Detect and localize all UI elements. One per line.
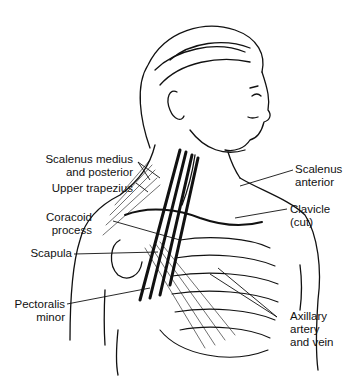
label-line: and vein bbox=[290, 336, 333, 349]
label-line: anterior bbox=[295, 176, 342, 189]
label-line: Upper trapezius bbox=[52, 182, 133, 195]
label-line: Scalenus bbox=[295, 163, 342, 176]
label-line: Pectoralis bbox=[15, 298, 66, 311]
label-line: Scalenus medius bbox=[45, 153, 133, 166]
label-coracoid-process: Coracoid process bbox=[46, 211, 92, 237]
label-line: Scapula bbox=[30, 247, 72, 260]
label-line: (cut) bbox=[290, 216, 330, 229]
label-line: Coracoid bbox=[46, 211, 92, 224]
label-scalenus-medius: Scalenus medius and posterior bbox=[45, 153, 133, 179]
label-line: minor bbox=[15, 311, 66, 324]
label-axillary-artery-vein: Axillary artery and vein bbox=[290, 310, 333, 349]
head-drawing bbox=[140, 26, 270, 178]
label-scalenus-anterior: Scalenus anterior bbox=[295, 163, 342, 189]
label-scapula: Scapula bbox=[30, 247, 72, 260]
scalene-muscles bbox=[140, 150, 198, 300]
label-upper-trapezius: Upper trapezius bbox=[52, 182, 133, 195]
label-line: Clavicle bbox=[290, 203, 330, 216]
label-pectoralis-minor: Pectoralis minor bbox=[15, 298, 66, 324]
scapula-drawing bbox=[111, 240, 142, 278]
label-line: and posterior bbox=[45, 166, 133, 179]
label-line: process bbox=[46, 224, 92, 237]
label-line: Axillary bbox=[290, 310, 333, 323]
label-clavicle-cut: Clavicle (cut) bbox=[290, 203, 330, 229]
label-line: artery bbox=[290, 323, 333, 336]
